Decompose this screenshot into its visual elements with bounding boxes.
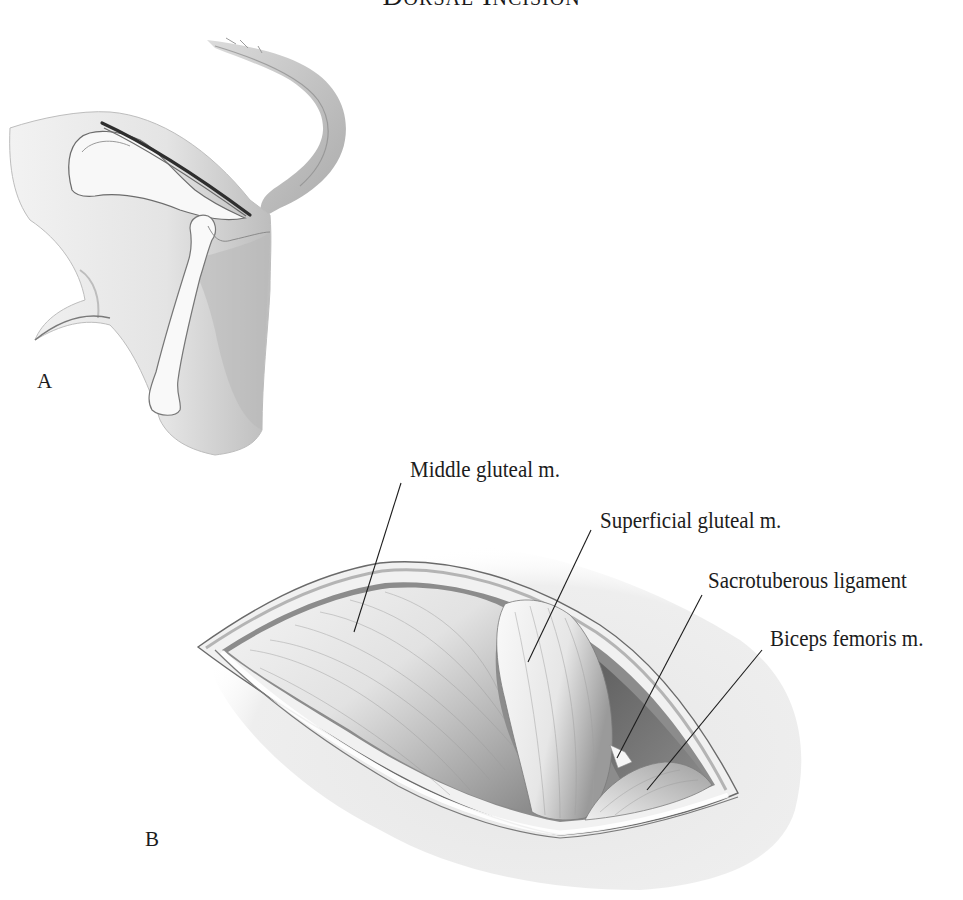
label-sacrotuberous-ligament: Sacrotuberous ligament: [708, 570, 907, 593]
panel-letter-a: A: [37, 371, 52, 392]
label-biceps-femoris: Biceps femoris m.: [770, 628, 923, 651]
label-superficial-gluteal: Superficial gluteal m.: [600, 510, 781, 533]
panel-letter-b: B: [145, 829, 159, 850]
panel-a-illustration: [10, 38, 346, 455]
panel-b-illustration: [198, 544, 801, 890]
label-middle-gluteal: Middle gluteal m.: [410, 459, 560, 482]
anatomical-illustration: [0, 0, 963, 900]
